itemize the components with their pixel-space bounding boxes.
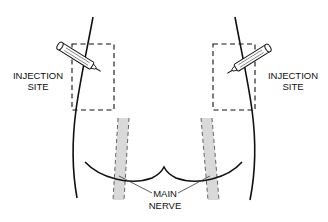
- left-injection-label-line2: SITE: [27, 81, 48, 92]
- left-sciatic-nerve: [113, 118, 129, 200]
- right-nerve-leader: [178, 176, 210, 193]
- nerve-label-line1: MAIN: [153, 188, 177, 199]
- nerve-label-line2: NERVE: [149, 200, 182, 211]
- left-injection-label-line1: INJECTION: [13, 70, 63, 81]
- right-injection-zone: [213, 44, 255, 110]
- injection-site-diagram: INJECTION SITE INJECTION SITE MAIN NERVE: [0, 0, 328, 222]
- right-sciatic-nerve: [201, 118, 219, 200]
- right-injection-label-line2: SITE: [282, 81, 303, 92]
- gluteal-fold: [85, 162, 242, 181]
- right-injection-label-line1: INJECTION: [268, 70, 318, 81]
- right-syringe-icon: [225, 43, 272, 77]
